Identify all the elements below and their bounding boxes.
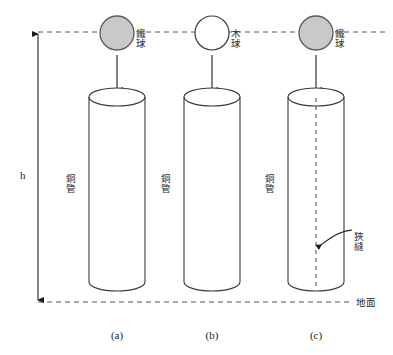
tube-a-top-rim xyxy=(89,88,145,106)
ground-line-label: 地面 xyxy=(356,297,376,308)
column-a: 鐵球 銅管 (a) xyxy=(65,16,146,342)
ball-a-iron xyxy=(100,16,134,50)
slit-label: 狹縫 xyxy=(353,231,364,252)
caption-a: (a) xyxy=(111,329,124,342)
tube-b-bottom-arc xyxy=(184,282,240,291)
column-c: 鐵球 銅管 狹縫 (c) xyxy=(264,16,364,342)
slit-callout-leader xyxy=(318,230,352,247)
tube-b-top-rim xyxy=(184,88,240,106)
physics-diagram: 地面 h 鐵球 銅管 (a) 木球 銅管 (b xyxy=(0,0,393,355)
tube-a-label: 銅管 xyxy=(65,173,76,194)
ball-c-label: 鐵球 xyxy=(334,28,345,49)
column-b: 木球 銅管 (b) xyxy=(160,16,241,342)
caption-c: (c) xyxy=(310,329,323,342)
ball-b-wood xyxy=(195,16,229,50)
ball-a-label: 鐵球 xyxy=(135,28,146,49)
height-label: h xyxy=(20,169,26,181)
ball-b-label: 木球 xyxy=(230,28,241,49)
tube-c-label: 銅管 xyxy=(264,173,275,194)
caption-b: (b) xyxy=(206,329,219,342)
tube-c-top-rim xyxy=(288,88,344,106)
ball-c-iron xyxy=(299,16,333,50)
tube-a-bottom-arc xyxy=(89,282,145,291)
tube-b-label: 銅管 xyxy=(160,173,171,194)
